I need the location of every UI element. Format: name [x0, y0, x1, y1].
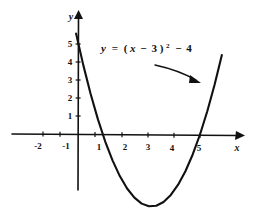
equation-close-paren: ): [160, 42, 164, 55]
parabola-figure: -2 -1 1 2 3 4 5 x 1 2 3 4 5 y: [0, 0, 263, 218]
equation-h-value: 3: [151, 42, 157, 54]
x-tick-label-5: 5: [197, 143, 202, 153]
equation-minus-h: −: [140, 42, 146, 54]
x-axis-line: [12, 134, 236, 136]
equation-minus-k: −: [175, 42, 181, 54]
equation-label: y = ( x − 3 ) 2 − 4: [99, 38, 192, 55]
y-tick-label-4: 4: [68, 57, 73, 67]
equation-lhs: y: [99, 42, 106, 54]
equation-k-value: 4: [186, 42, 192, 54]
x-tick-label-3: 3: [146, 142, 151, 152]
equation-equals: =: [112, 42, 118, 54]
graph-canvas: -2 -1 1 2 3 4 5 x 1 2 3 4 5 y: [0, 0, 263, 218]
y-tick-label-2: 2: [68, 93, 73, 103]
equation-exponent: 2: [166, 42, 170, 50]
x-axis-label: x: [234, 142, 240, 153]
x-tick-label--1: -1: [62, 141, 70, 151]
x-axis-arrowhead: [235, 131, 245, 140]
x-tick-label-2: 2: [123, 142, 128, 152]
y-tick-label-5: 5: [68, 39, 73, 49]
equation-open-paren: (: [124, 42, 128, 55]
pointer-arrowhead: [189, 75, 201, 83]
y-axis: 1 2 3 4 5 y: [68, 10, 83, 190]
y-tick-label-3: 3: [68, 75, 73, 85]
y-axis-label: y: [68, 11, 74, 22]
y-axis-arrowhead: [74, 10, 83, 19]
x-tick-label-4: 4: [170, 143, 175, 153]
parabola-curve: [76, 34, 222, 207]
equation-variable: x: [129, 42, 136, 54]
label-pointer: [155, 65, 201, 83]
y-tick-label-1: 1: [68, 111, 73, 121]
x-tick-label--2: -2: [34, 141, 42, 151]
x-tick-label-1: 1: [97, 142, 102, 152]
x-axis: -2 -1 1 2 3 4 5 x: [12, 131, 245, 153]
